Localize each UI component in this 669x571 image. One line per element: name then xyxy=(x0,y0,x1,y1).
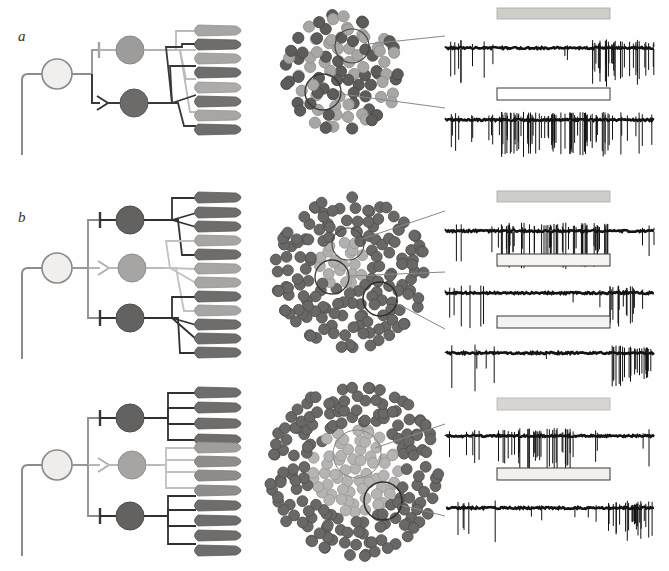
target-cell xyxy=(195,305,242,316)
target-cell xyxy=(195,347,242,358)
population-cell-light xyxy=(384,488,395,499)
panel-a-cluster xyxy=(270,0,445,185)
population-cell-dark xyxy=(269,449,280,460)
population-cell-dark xyxy=(389,237,400,248)
population-cell-dark xyxy=(292,274,303,285)
population-cell-dark xyxy=(387,407,398,418)
population-cell-light xyxy=(368,458,379,469)
trace-baseline xyxy=(446,435,654,437)
trace-baseline xyxy=(446,47,654,49)
excitatory-fan-mid xyxy=(160,448,196,488)
population-cell-light xyxy=(309,117,320,128)
population-cell-dark xyxy=(339,537,350,548)
target-cell xyxy=(195,387,242,398)
stimulus-bar-filled xyxy=(497,398,610,410)
interneuron-soma-excitatory xyxy=(118,254,146,282)
population-cell-dark xyxy=(280,423,291,434)
population-cell-dark xyxy=(310,392,321,403)
population-cell-light xyxy=(387,450,398,461)
spike-traces-b xyxy=(440,181,669,376)
target-cell xyxy=(195,442,242,453)
population-cell-dark xyxy=(297,517,308,528)
population-cell-dark xyxy=(335,226,346,237)
target-cell xyxy=(195,249,242,260)
population-cell-light xyxy=(339,237,350,248)
population-cell-dark xyxy=(278,467,289,478)
target-cell xyxy=(195,96,242,107)
trace-baseline xyxy=(446,352,654,354)
population-cell-dark xyxy=(288,464,299,475)
population-cell-dark xyxy=(347,192,358,203)
population-cell-dark xyxy=(358,328,369,339)
population-cell-dark xyxy=(319,324,330,335)
population-cell-dark xyxy=(347,382,358,393)
population-cell-dark xyxy=(417,246,428,257)
population-cell-dark xyxy=(281,251,292,262)
population-cell-dark xyxy=(351,539,362,550)
target-cell xyxy=(195,319,242,330)
population-cell-light xyxy=(374,45,385,56)
panel-c-circuit xyxy=(0,376,270,571)
target-cell xyxy=(195,82,242,93)
population-cell-dark xyxy=(314,17,325,28)
population-cell-dark xyxy=(322,520,333,531)
target-cell xyxy=(195,500,242,511)
stimulus-bar-open xyxy=(497,316,610,328)
population-cell-dark xyxy=(275,477,286,488)
population-cell-dark xyxy=(393,420,404,431)
population-cell-dark xyxy=(377,509,388,520)
target-cell xyxy=(195,485,242,496)
population-cell-dark xyxy=(280,305,291,316)
branch-down xyxy=(88,465,100,516)
target-cell xyxy=(195,515,242,526)
target-cell xyxy=(195,124,242,135)
target-cell-column-a xyxy=(195,25,242,135)
population-cell-light xyxy=(311,47,322,58)
panel-b-circuit xyxy=(0,181,270,376)
afferent-axon xyxy=(22,268,42,359)
trace-baseline xyxy=(446,119,654,121)
population-cell-dark xyxy=(384,330,395,341)
population-cell-dark xyxy=(420,461,431,472)
population-cell-dark xyxy=(350,203,361,214)
stimulus-bar-filled xyxy=(497,191,610,202)
population-cell-dark xyxy=(385,270,396,281)
population-cell-dark xyxy=(342,527,353,538)
population-cell-dark xyxy=(392,69,403,80)
population-cell-dark xyxy=(404,414,415,425)
population-cell-dark xyxy=(371,395,382,406)
population-cell-dark xyxy=(421,447,432,458)
population-cell-dark xyxy=(318,212,329,223)
population-cell-dark xyxy=(281,516,292,527)
population-cell-dark xyxy=(357,17,368,28)
population-cell-dark xyxy=(409,230,420,241)
interneuron-soma-inhibitory xyxy=(116,304,144,332)
population-cell-dark xyxy=(351,405,362,416)
population-cell-dark xyxy=(337,384,348,395)
population-cell-dark xyxy=(336,342,347,353)
input-neuron-soma xyxy=(42,253,72,283)
population-cell-light xyxy=(323,269,334,280)
population-cell-dark xyxy=(359,551,370,562)
population-cell-dark xyxy=(351,516,362,527)
population-cell-dark xyxy=(352,227,363,238)
trace-baseline xyxy=(446,507,654,509)
population-cell-light xyxy=(336,494,347,505)
circuit-diagram-b xyxy=(0,181,270,376)
cell-population-map-a xyxy=(270,0,445,185)
input-neuron-soma xyxy=(42,59,72,89)
population-cell-dark xyxy=(369,546,380,557)
interneuron-soma-inhibitory xyxy=(116,206,144,234)
target-cell xyxy=(195,39,242,50)
population-cell-dark xyxy=(339,396,350,407)
stimulus-bar-open xyxy=(497,88,610,100)
target-cell xyxy=(195,67,242,78)
panel-c xyxy=(0,376,669,571)
target-cell xyxy=(195,263,242,274)
target-cell xyxy=(195,192,242,203)
population-cell-dark xyxy=(427,493,438,504)
population-cell-dark xyxy=(381,202,392,213)
population-cell-light xyxy=(330,469,341,480)
population-cell-dark xyxy=(382,543,393,554)
population-cell-dark xyxy=(404,492,415,503)
